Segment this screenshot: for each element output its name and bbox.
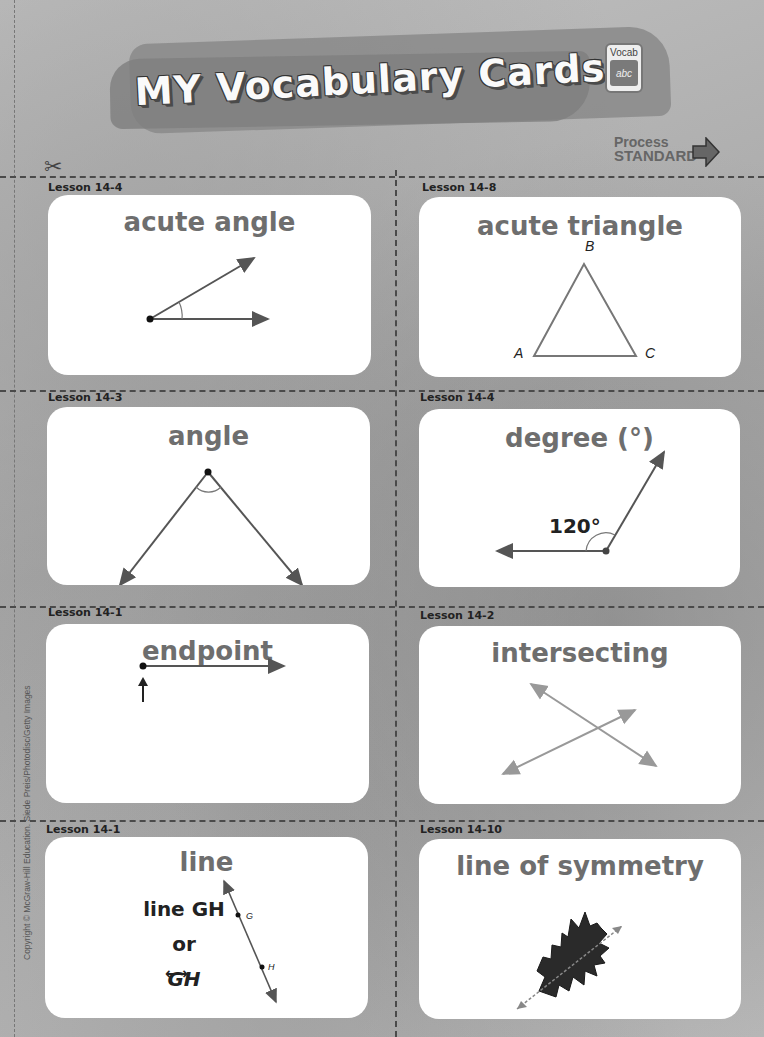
vocab-card-line-of-symmetry: line of symmetry: [419, 839, 741, 1019]
pointer-arrow-icon: [138, 677, 148, 686]
lesson-label: Lesson 14-1: [46, 823, 120, 836]
lesson-label: Lesson 14-4: [420, 391, 494, 404]
svg-text:H: H: [268, 962, 275, 972]
vocab-card-degree: degree (°) 120°: [419, 409, 740, 587]
vertex-label-a: A: [513, 345, 523, 361]
line-gh-illustration: G H: [45, 837, 368, 1018]
acute-angle-illustration: [48, 195, 371, 375]
abc-icon: abc: [610, 60, 638, 86]
vocab-card-acute-triangle: acute triangle B A C: [419, 197, 741, 377]
arrow-right-icon: [692, 137, 720, 167]
lesson-label: Lesson 14-2: [420, 609, 494, 622]
vocab-card-acute-angle: acute angle: [48, 195, 371, 375]
angle-illustration: [47, 407, 370, 585]
lesson-label: Lesson 14-8: [422, 181, 496, 194]
cut-line: [0, 176, 764, 178]
process-standard: Process STANDARD: [614, 136, 697, 162]
cut-line-vertical: [395, 170, 397, 1037]
left-margin-dashes: [14, 0, 15, 1037]
vocab-badge-label: Vocab: [610, 47, 638, 58]
lesson-label: Lesson 14-3: [48, 391, 122, 404]
vocab-badge: Vocab abc: [605, 43, 643, 93]
oak-leaf-image: [537, 912, 609, 997]
svg-text:G: G: [246, 911, 253, 921]
degree-angle-illustration: [419, 409, 740, 587]
copyright-credits: Copyright © McGraw-Hill Education. Siede…: [22, 685, 32, 960]
vocab-card-intersecting: intersecting: [419, 626, 741, 804]
triangle-illustration: B A C: [419, 197, 741, 377]
vocab-card-line: line line GH or ⟷ GH G H: [45, 837, 368, 1018]
standard-label: STANDARD: [614, 149, 697, 162]
vocab-card-angle: angle: [47, 407, 370, 585]
intersecting-lines-illustration: [419, 626, 741, 804]
lesson-label: Lesson 14-4: [48, 181, 122, 194]
endpoint-illustration: [46, 624, 369, 803]
vertex-label-b: B: [585, 238, 594, 254]
lesson-label: Lesson 14-1: [48, 606, 122, 619]
cut-line: [0, 820, 764, 822]
vertex-label-c: C: [645, 345, 656, 361]
vocab-card-endpoint: endpoint: [46, 624, 369, 803]
lesson-label: Lesson 14-10: [420, 823, 502, 836]
angle-measure: 120°: [549, 514, 601, 538]
oak-leaf-symmetry-illustration: [419, 839, 741, 1019]
